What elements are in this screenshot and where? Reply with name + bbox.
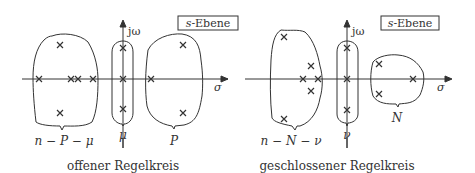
- group-label-right: P: [169, 134, 179, 148]
- group-label-mid: μ: [119, 128, 127, 142]
- left-pole-region: [270, 30, 322, 130]
- imag-axis-label: jω: [350, 25, 364, 38]
- group-label-left: n − P − μ: [35, 134, 94, 148]
- s-plane-label: s-Ebene: [388, 17, 433, 30]
- imag-axis-label: jω: [126, 25, 140, 38]
- real-axis-label: σ: [214, 81, 222, 94]
- closed-loop-poles: [281, 34, 416, 122]
- imag-axis-arrow-icon: [344, 20, 350, 27]
- caption-open-loop: offener Regelkreis: [67, 159, 179, 173]
- imag-axis-arrow-icon: [120, 20, 126, 27]
- real-axis-arrow-icon: [445, 76, 452, 82]
- real-axis-label: σ: [437, 81, 445, 94]
- left-pole-region: [33, 34, 98, 130]
- pole-diagram-figure: s-Ebene jω σ n − P − μ μ P offener Regel…: [0, 0, 475, 173]
- caption-closed-loop: geschlossener Regelkreis: [259, 159, 414, 173]
- group-label-left: n − N − ν: [261, 134, 322, 148]
- s-plane-label: s-Ebene: [186, 17, 231, 30]
- right-pole-region: [371, 55, 424, 107]
- group-label-mid: ν: [343, 128, 350, 142]
- real-axis-arrow-icon: [221, 76, 228, 82]
- group-label-right: N: [391, 111, 403, 125]
